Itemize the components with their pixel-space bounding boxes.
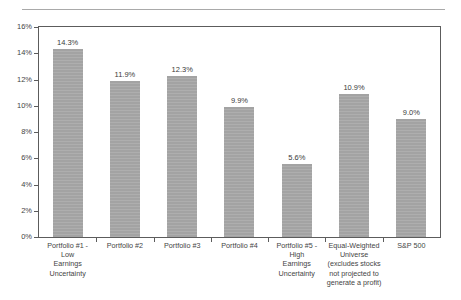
x-axis-tick-mark	[154, 238, 155, 242]
y-axis-tick-mark	[34, 53, 38, 54]
bars-layer: 14.3%11.9%12.3%9.9%5.6%10.9%9.0%	[39, 27, 440, 237]
x-axis-category-label-line: Earnings	[269, 259, 324, 268]
x-axis-tick-mark	[325, 238, 326, 242]
bar	[224, 107, 254, 237]
x-axis-category-label-line: Universe	[326, 250, 381, 259]
y-axis-tick-label: 14%	[2, 49, 32, 57]
x-axis-category-label: Portfolio #2	[96, 241, 153, 250]
x-axis: Portfolio #1 -LowEarningsUncertaintyPort…	[38, 241, 441, 299]
bar-group: 9.9%	[211, 27, 268, 237]
x-axis-tick-mark	[383, 238, 384, 242]
bar-value-label: 9.9%	[231, 96, 248, 105]
bar-group: 11.9%	[96, 27, 153, 237]
y-axis-tick-label: 8%	[2, 128, 32, 136]
x-axis-tick-mark	[211, 238, 212, 242]
x-axis-category-label-line: generate a profit)	[326, 278, 381, 287]
x-axis-category-label-line: Low	[40, 250, 95, 259]
y-axis-tick-mark	[34, 80, 38, 81]
x-axis-category-label-line: High	[269, 250, 324, 259]
y-axis-tick-label: 0%	[2, 233, 32, 241]
bar-value-label: 5.6%	[288, 153, 305, 162]
bar	[53, 49, 83, 237]
y-axis-tick-label: 16%	[2, 23, 32, 31]
y-axis-tick-label: 4%	[2, 181, 32, 189]
bar-group: 10.9%	[325, 27, 382, 237]
x-axis-category-label-line: Portfolio #2	[97, 241, 152, 250]
y-axis-tick-mark	[34, 211, 38, 212]
x-axis-category-label-line: (excludes stocks	[326, 259, 381, 268]
bar	[282, 164, 312, 238]
x-axis-category-label-line: Portfolio #5 -	[269, 241, 324, 250]
y-axis-tick-mark	[34, 27, 38, 28]
bar-value-label: 9.0%	[403, 108, 420, 117]
x-axis-category-label-line: not projected to	[326, 269, 381, 278]
x-axis-category-label-line: Uncertainty	[40, 269, 95, 278]
y-axis: 16%14%12%10%8%6%4%2%0%	[0, 0, 32, 300]
x-axis-tick-mark	[96, 238, 97, 242]
x-axis-category-label: S&P 500	[383, 241, 440, 250]
x-axis-category-label: Portfolio #5 -HighEarningsUncertainty	[268, 241, 325, 278]
bar-value-label: 10.9%	[343, 83, 364, 92]
bar	[167, 76, 197, 237]
bar	[110, 81, 140, 237]
y-axis-tick-label: 10%	[2, 102, 32, 110]
y-axis-tick-mark	[34, 158, 38, 159]
x-axis-category-label-line: Uncertainty	[269, 269, 324, 278]
bar-group: 9.0%	[383, 27, 440, 237]
x-axis-category-label-line: Portfolio #1 -	[40, 241, 95, 250]
x-axis-tick-mark	[268, 238, 269, 242]
bar-group: 14.3%	[39, 27, 96, 237]
x-axis-category-label-line: Portfolio #3	[155, 241, 210, 250]
x-axis-category-label-line: S&P 500	[384, 241, 439, 250]
y-axis-tick-mark	[34, 185, 38, 186]
x-axis-category-label: Equal-WeightedUniverse(excludes stocksno…	[325, 241, 382, 287]
x-axis-category-label: Portfolio #3	[154, 241, 211, 250]
y-axis-tick-label: 2%	[2, 207, 32, 215]
x-axis-category-label: Portfolio #1 -LowEarningsUncertainty	[39, 241, 96, 278]
y-axis-tick-label: 12%	[2, 76, 32, 84]
bar	[339, 94, 369, 237]
y-axis-tick-mark	[34, 132, 38, 133]
x-axis-category-label-line: Portfolio #4	[212, 241, 267, 250]
y-axis-tick-mark	[34, 237, 38, 238]
x-axis-category-label: Portfolio #4	[211, 241, 268, 250]
bar-value-label: 14.3%	[57, 38, 78, 47]
bar	[396, 119, 426, 237]
bar-value-label: 12.3%	[172, 65, 193, 74]
bar-chart: 16%14%12%10%8%6%4%2%0% 14.3%11.9%12.3%9.…	[0, 0, 461, 300]
bar-group: 12.3%	[154, 27, 211, 237]
x-axis-category-label-line: Equal-Weighted	[326, 241, 381, 250]
y-axis-tick-mark	[34, 106, 38, 107]
bar-group: 5.6%	[268, 27, 325, 237]
y-axis-tick-label: 6%	[2, 154, 32, 162]
x-axis-category-label-line: Earnings	[40, 259, 95, 268]
bar-value-label: 11.9%	[115, 70, 136, 79]
